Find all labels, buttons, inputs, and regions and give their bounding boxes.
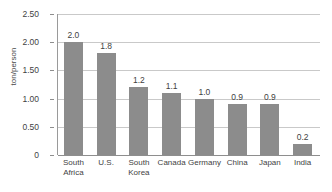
y-tick-mark-1.50 <box>50 70 54 71</box>
bar-value-label: 0.9 <box>222 93 252 102</box>
y-tick-label-1.00: 1.00 <box>5 95 39 103</box>
bar[interactable] <box>162 93 181 155</box>
bar-column[interactable]: 1.0 <box>188 14 221 155</box>
bar[interactable] <box>97 53 116 155</box>
bar-column[interactable]: 0.9 <box>254 14 287 155</box>
x-axis-tick-label: India <box>286 158 319 177</box>
bar-column[interactable]: 2.0 <box>57 14 90 155</box>
x-axis-line <box>58 155 320 156</box>
x-axis-tick-label: Canada <box>155 158 188 177</box>
bar-value-label: 0.2 <box>288 133 318 142</box>
y-tick-label-0.50: 0.50 <box>5 123 39 131</box>
bar[interactable] <box>64 42 83 155</box>
bar-column[interactable]: 0.2 <box>286 14 319 155</box>
x-axis-tick-label: Germany <box>188 158 221 177</box>
y-tick-mark-0.50 <box>50 127 54 128</box>
y-tick-label-2.50: 2.50 <box>5 10 39 18</box>
y-tick-label-1.50: 1.50 <box>5 66 39 74</box>
bar[interactable] <box>129 87 148 155</box>
bar-value-label: 0.9 <box>255 93 285 102</box>
bar-column[interactable]: 1.1 <box>155 14 188 155</box>
bar-column[interactable]: 1.2 <box>123 14 156 155</box>
bar-value-label: 2.0 <box>58 31 88 40</box>
x-axis-tick-label: China <box>221 158 254 177</box>
bar-column[interactable]: 1.8 <box>90 14 123 155</box>
x-axis-labels: South AfricaU.S.South KoreaCanadaGermany… <box>57 158 319 177</box>
bar-column[interactable]: 0.9 <box>221 14 254 155</box>
y-tick-mark-0 <box>50 155 54 156</box>
bar[interactable] <box>195 99 214 155</box>
x-axis-tick-label: Japan <box>254 158 287 177</box>
bar-value-label: 1.1 <box>157 82 187 91</box>
bar-value-label: 1.2 <box>124 76 154 85</box>
bar[interactable] <box>293 144 312 155</box>
bar-chart: ton/person 2.50 2.00 1.50 1.00 0.50 0 2.… <box>0 0 332 192</box>
y-tick-label-2.00: 2.00 <box>5 38 39 46</box>
bar[interactable] <box>228 104 247 155</box>
x-axis-tick-label: South Korea <box>123 158 156 177</box>
y-tick-label-0: 0 <box>5 151 39 159</box>
bar-value-label: 1.8 <box>91 42 121 51</box>
y-tick-mark-1.00 <box>50 99 54 100</box>
bar-series: 2.01.81.21.11.00.90.90.2 <box>57 14 319 155</box>
bar-value-label: 1.0 <box>189 88 219 97</box>
y-tick-mark-2.50 <box>50 14 54 15</box>
y-tick-mark-2.00 <box>50 42 54 43</box>
x-axis-tick-label: U.S. <box>90 158 123 177</box>
x-axis-tick-label: South Africa <box>57 158 90 177</box>
bar[interactable] <box>260 104 279 155</box>
